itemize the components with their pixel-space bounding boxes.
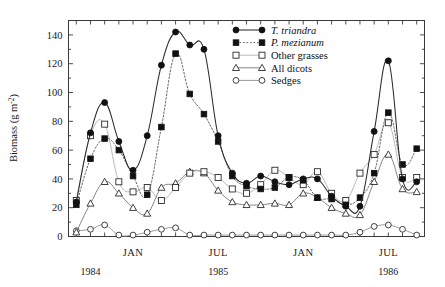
y-tick-label: 120 xyxy=(47,58,63,69)
data-point-filled-square xyxy=(371,170,377,176)
x-year-label: 1986 xyxy=(378,266,398,277)
y-tick-label: 60 xyxy=(52,145,63,156)
data-point-open-circle xyxy=(116,232,122,238)
data-point-filled-circle xyxy=(73,199,79,205)
data-point-open-square xyxy=(371,151,377,157)
data-point-filled-square xyxy=(116,147,122,153)
data-point-filled-circle xyxy=(130,167,136,173)
data-point-filled-circle xyxy=(173,29,179,35)
data-point-open-circle xyxy=(215,232,221,238)
y-tick-label: 80 xyxy=(52,116,63,127)
data-point-filled-square xyxy=(386,110,392,116)
data-point-open-circle xyxy=(329,232,335,238)
data-point-filled-circle xyxy=(400,176,406,182)
data-point-open-square xyxy=(173,185,179,191)
data-point-filled-circle xyxy=(258,173,264,179)
data-point-open-circle xyxy=(88,226,94,232)
data-point-filled-square xyxy=(233,40,239,46)
data-point-filled-square xyxy=(187,91,193,97)
y-tick-label: 0 xyxy=(57,231,62,242)
data-point-filled-circle xyxy=(215,133,221,139)
data-point-open-circle xyxy=(130,232,136,238)
data-point-open-circle xyxy=(286,232,292,238)
data-point-filled-circle xyxy=(286,182,292,188)
data-point-open-circle xyxy=(244,232,250,238)
data-point-open-circle xyxy=(343,232,349,238)
data-point-filled-square xyxy=(272,185,278,191)
data-point-filled-square xyxy=(258,186,264,192)
biomass-time-series-chart: 020406080100120140 JANJULJANJUL 19841985… xyxy=(0,0,445,287)
legend-label: All dicots xyxy=(271,63,312,74)
data-point-open-circle xyxy=(259,78,265,84)
data-point-open-circle xyxy=(357,229,363,235)
x-month-label: JUL xyxy=(379,247,398,258)
y-tick-label: 140 xyxy=(47,30,63,41)
y-tick-label: 100 xyxy=(47,87,63,98)
data-point-filled-square xyxy=(144,192,150,198)
data-point-filled-square xyxy=(414,146,420,152)
data-point-open-circle xyxy=(315,232,321,238)
data-point-open-square xyxy=(357,170,363,176)
data-point-open-circle xyxy=(102,222,108,228)
data-point-open-circle xyxy=(144,229,150,235)
data-point-open-circle xyxy=(385,222,391,228)
data-point-filled-circle xyxy=(87,130,93,136)
x-year-label: 1984 xyxy=(80,266,100,277)
data-point-filled-circle xyxy=(259,27,265,33)
data-point-filled-circle xyxy=(102,100,108,106)
data-point-filled-circle xyxy=(300,176,306,182)
data-point-open-square xyxy=(314,169,320,175)
data-point-open-circle xyxy=(187,232,193,238)
data-point-filled-square xyxy=(259,40,265,46)
data-point-open-square xyxy=(385,120,391,126)
data-point-filled-circle xyxy=(329,193,335,199)
data-point-filled-circle xyxy=(314,176,320,182)
data-point-open-square xyxy=(187,170,193,176)
x-year-label: 1985 xyxy=(208,266,228,277)
data-point-filled-square xyxy=(201,111,207,117)
data-point-open-circle xyxy=(173,225,179,231)
data-point-filled-circle xyxy=(116,138,122,144)
data-point-filled-circle xyxy=(272,179,278,185)
data-point-filled-circle xyxy=(371,128,377,134)
data-point-filled-circle xyxy=(144,133,150,139)
data-point-filled-square xyxy=(88,156,94,162)
x-month-label: JUL xyxy=(208,247,227,258)
data-point-filled-square xyxy=(286,175,292,181)
data-point-open-circle xyxy=(229,232,235,238)
data-point-filled-circle xyxy=(414,179,420,185)
x-month-label: JAN xyxy=(293,247,313,258)
data-point-open-circle xyxy=(371,224,377,230)
data-point-open-square xyxy=(233,52,239,58)
data-point-filled-circle xyxy=(187,42,193,48)
data-point-filled-circle xyxy=(343,203,349,209)
data-point-filled-square xyxy=(315,195,321,201)
data-point-open-square xyxy=(215,174,221,180)
data-point-open-circle xyxy=(233,78,239,84)
data-point-open-circle xyxy=(159,226,165,232)
data-point-open-square xyxy=(201,169,207,175)
data-point-open-square xyxy=(244,190,250,196)
data-point-open-square xyxy=(130,189,136,195)
data-point-filled-circle xyxy=(244,180,250,186)
data-point-open-circle xyxy=(272,232,278,238)
y-tick-label: 40 xyxy=(52,174,63,185)
x-month-label: JAN xyxy=(123,247,143,258)
data-point-open-circle xyxy=(258,232,264,238)
data-point-open-circle xyxy=(400,226,406,232)
data-point-open-circle xyxy=(300,232,306,238)
data-point-open-circle xyxy=(201,232,207,238)
legend-label: Other grasses xyxy=(271,50,328,61)
data-point-open-square xyxy=(272,167,278,173)
data-point-filled-circle xyxy=(201,46,207,52)
legend-label: T. triandra xyxy=(271,25,316,36)
data-point-open-square xyxy=(259,52,265,58)
y-tick-label: 20 xyxy=(52,202,63,213)
data-point-open-square xyxy=(144,185,150,191)
data-point-open-circle xyxy=(414,232,420,238)
data-point-open-square xyxy=(102,121,108,127)
data-point-open-square xyxy=(116,179,122,185)
data-point-filled-circle xyxy=(229,170,235,176)
data-point-filled-square xyxy=(173,51,179,57)
legend-label: Sedges xyxy=(271,75,301,86)
